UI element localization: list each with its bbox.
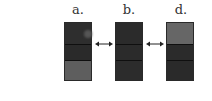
divider bbox=[116, 44, 142, 45]
panel-d-middle bbox=[167, 44, 193, 60]
panel-d-top bbox=[167, 23, 193, 44]
divider bbox=[167, 60, 193, 61]
panel-d-bottom bbox=[167, 60, 193, 80]
bright-spot bbox=[84, 30, 92, 38]
label-b: b. bbox=[114, 2, 144, 17]
panel-b-bottom bbox=[116, 60, 142, 80]
double-arrow-icon bbox=[95, 41, 113, 47]
double-arrow-icon bbox=[146, 41, 164, 47]
label-d: d. bbox=[166, 2, 196, 17]
divider bbox=[167, 44, 193, 45]
panel-b bbox=[115, 22, 143, 81]
panel-a-bottom bbox=[65, 60, 91, 80]
panel-b-top bbox=[116, 23, 142, 44]
panel-d bbox=[166, 22, 194, 81]
label-a: a. bbox=[63, 2, 93, 17]
panel-a-middle bbox=[65, 44, 91, 60]
divider bbox=[65, 44, 91, 45]
panel-b-middle bbox=[116, 44, 142, 60]
divider bbox=[116, 60, 142, 61]
panel-a bbox=[64, 22, 92, 81]
divider bbox=[65, 60, 91, 61]
